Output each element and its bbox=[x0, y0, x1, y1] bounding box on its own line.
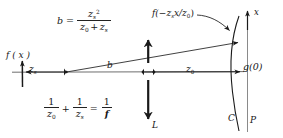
formula-lens-num2: 1 bbox=[74, 97, 86, 107]
formula-ray-length: b = zs2 z0+zs bbox=[57, 9, 111, 33]
label-scaled-head: f(−z bbox=[152, 8, 171, 18]
label-curve-c: C bbox=[228, 113, 235, 123]
label-ray-length: b bbox=[107, 60, 113, 70]
formula-lens-term3: 1 f bbox=[101, 97, 113, 119]
label-output-amplitude: g(0) bbox=[243, 61, 263, 72]
label-axis-x: x bbox=[254, 7, 259, 17]
leader-line bbox=[197, 15, 230, 31]
label-scaled-mid: x/z bbox=[174, 8, 187, 18]
formula-lens-den2: zs bbox=[73, 107, 87, 120]
label-plane-p: P bbox=[250, 115, 256, 125]
formula-b-num-sup: 2 bbox=[96, 9, 100, 15]
formula-lens-den2-sub: s bbox=[81, 114, 84, 120]
label-zs-sub: s bbox=[34, 69, 37, 75]
formula-lens-term1: 1 z0 bbox=[44, 97, 59, 120]
label-scaled-function: f(−zsx/z0) bbox=[152, 8, 194, 19]
diagram-strokes bbox=[0, 0, 283, 138]
formula-b-lhs: b bbox=[57, 15, 63, 26]
label-scaled-end: ) bbox=[190, 8, 194, 18]
lens-double-arrow bbox=[141, 40, 155, 119]
label-object-function: f ( x ) bbox=[6, 50, 30, 60]
formula-lens-term2: 1 zs bbox=[73, 97, 87, 120]
label-lens-l: L bbox=[152, 120, 158, 130]
formula-b-equals: = bbox=[66, 15, 74, 26]
formula-lens-den1: z0 bbox=[44, 107, 59, 120]
formula-lens-num3: 1 bbox=[101, 97, 113, 107]
formula-lens-equals: = bbox=[90, 103, 98, 114]
formula-b-den-plus: + bbox=[89, 21, 100, 32]
formula-lens-den3-base: f bbox=[105, 108, 109, 119]
formula-lens-num1: 1 bbox=[45, 97, 57, 107]
formula-b-denominator: z0+zs bbox=[77, 20, 111, 33]
formula-b-fraction: zs2 z0+zs bbox=[77, 9, 111, 33]
formula-b-den2-sub: s bbox=[105, 27, 108, 33]
label-image-distance: z0 bbox=[186, 64, 194, 75]
formula-b-numerator: zs2 bbox=[85, 9, 103, 20]
formula-lens-den1-sub: 0 bbox=[52, 114, 56, 120]
ray-b-line bbox=[65, 43, 238, 74]
formula-thin-lens: 1 z0 + 1 zs = 1 f bbox=[44, 97, 113, 120]
label-object-distance: zs bbox=[29, 64, 37, 75]
formula-lens-plus: + bbox=[62, 103, 70, 114]
optics-diagram-figure: b = zs2 z0+zs 1 z0 + 1 zs = 1 f f ( x ) … bbox=[0, 0, 283, 138]
label-z0-sub: 0 bbox=[191, 69, 195, 75]
formula-lens-den3: f bbox=[102, 107, 112, 119]
